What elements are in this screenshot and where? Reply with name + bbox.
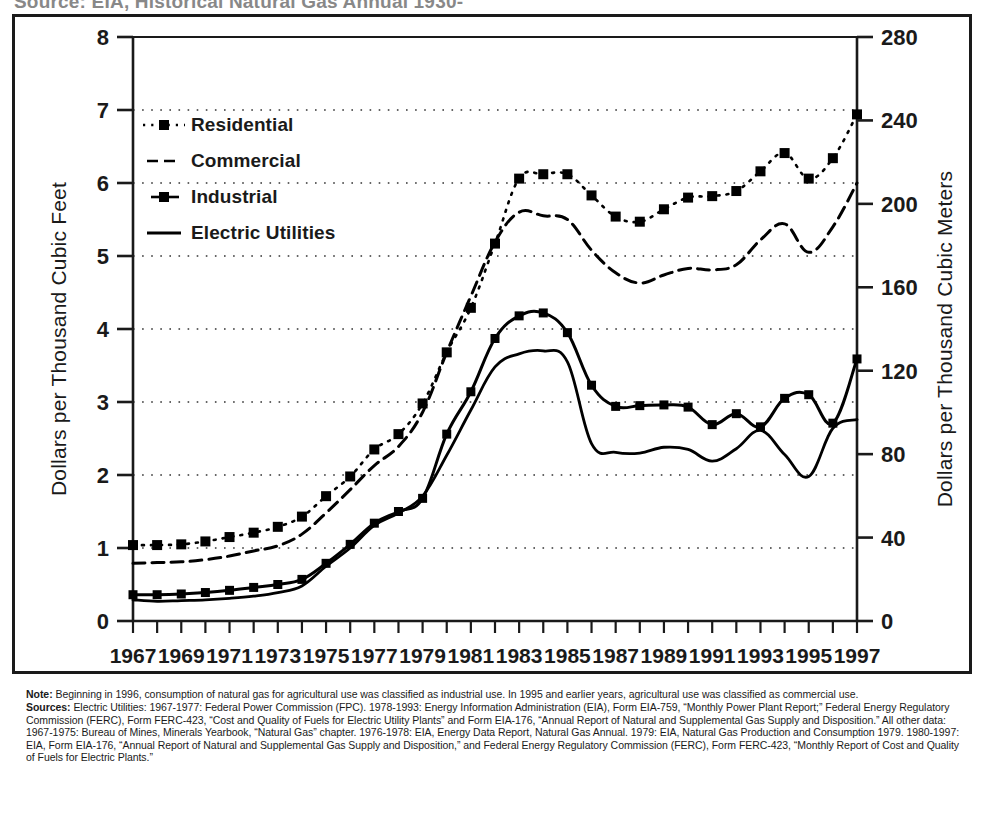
svg-text:240: 240 [881,108,918,133]
sources-text: Electric Utilities: 1967-1977: Federal P… [26,701,959,763]
svg-text:0: 0 [97,609,109,634]
svg-text:1997: 1997 [834,644,881,667]
legend-key-dotted-square-marker [141,117,187,133]
svg-text:1983: 1983 [496,644,543,667]
legend-key-dashed-line [141,153,187,169]
legend-item-commercial: Commercial [141,143,391,179]
chart-legend: ResidentialCommercialIndustrialElectric … [141,107,391,251]
svg-text:1971: 1971 [206,644,253,667]
svg-text:1985: 1985 [544,644,591,667]
note-label: Note: [26,688,53,700]
svg-text:280: 280 [881,25,918,50]
legend-key-solid-line [141,225,187,241]
svg-text:1973: 1973 [254,644,301,667]
svg-text:200: 200 [881,192,918,217]
legend-item-electric-utilities: Electric Utilities [141,215,391,251]
legend-item-residential: Residential [141,107,391,143]
svg-text:8: 8 [97,25,109,50]
svg-text:120: 120 [881,359,918,384]
svg-text:3: 3 [97,390,109,415]
svg-text:1967: 1967 [110,644,157,667]
svg-text:7: 7 [97,98,109,123]
series-electric-utilities [133,350,857,601]
svg-text:6: 6 [97,171,109,196]
svg-text:1977: 1977 [351,644,398,667]
svg-text:1969: 1969 [158,644,205,667]
svg-text:1975: 1975 [303,644,350,667]
legend-key-solid-small-square-marker [141,189,187,205]
note-block: Note: Beginning in 1996, consumption of … [26,688,970,700]
svg-text:5: 5 [97,244,109,269]
legend-label: Industrial [191,186,278,208]
svg-text:1991: 1991 [689,644,736,667]
legend-item-industrial: Industrial [141,179,391,215]
svg-text:2: 2 [97,463,109,488]
svg-text:160: 160 [881,275,918,300]
top-source-caption: Source: EIA, Historical Natural Gas Annu… [14,0,463,13]
svg-text:1979: 1979 [399,644,446,667]
chart-footnotes: Note: Beginning in 1996, consumption of … [26,688,970,764]
y-axis-left-title: Dollars per Thousand Cubic Feet [47,129,71,549]
sources-label: Sources: [26,701,71,713]
y-axis-right-title: Dollars per Thousand Cubic Meters [933,129,957,549]
note-text: Beginning in 1996, consumption of natura… [53,688,859,700]
svg-text:1989: 1989 [641,644,688,667]
svg-text:0: 0 [881,609,893,634]
svg-text:80: 80 [881,442,905,467]
svg-text:1981: 1981 [448,644,495,667]
svg-text:1987: 1987 [592,644,639,667]
chart-container: 0123456780408012016020024028019671969197… [12,14,972,674]
legend-label: Residential [191,114,293,136]
legend-label: Commercial [191,150,301,172]
svg-text:1995: 1995 [785,644,832,667]
svg-text:40: 40 [881,526,905,551]
sources-block: Sources: Electric Utilities: 1967-1977: … [26,701,970,763]
svg-text:1993: 1993 [737,644,784,667]
svg-text:4: 4 [97,317,110,342]
svg-text:1: 1 [97,536,109,561]
legend-label: Electric Utilities [191,222,335,244]
